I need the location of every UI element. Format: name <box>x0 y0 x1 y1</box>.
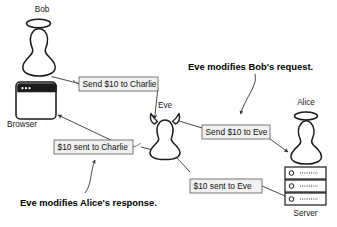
message-request-original-label: Send $10 to Charlie <box>83 79 157 89</box>
eve-horn-right-icon <box>173 114 180 125</box>
bob-halo-icon <box>27 19 51 27</box>
mitm-diagram: Bob Browser Eve Alice <box>0 0 337 227</box>
eve-body-icon <box>150 120 180 160</box>
browser-dot-3 <box>28 87 30 89</box>
actor-bob: Bob <box>23 5 55 76</box>
server-led-1 <box>289 171 294 176</box>
actor-alice: Alice <box>291 98 322 164</box>
actor-browser-label: Browser <box>7 120 37 129</box>
message-response-original: $10 sent to Eve <box>190 179 262 193</box>
browser-dot-1 <box>21 87 23 89</box>
browser-dot-2 <box>25 87 27 89</box>
server-led-3 <box>289 197 294 202</box>
actor-server-label: Server <box>293 209 317 218</box>
annotation-request: Eve modifies Bob's request. <box>188 61 313 114</box>
annotation-request-label: Eve modifies Bob's request. <box>188 61 313 72</box>
annotation-request-pointer <box>241 74 256 114</box>
actor-eve-label: Eve <box>158 101 173 110</box>
bob-body-icon <box>23 29 55 76</box>
alice-halo-icon <box>295 112 318 120</box>
diagram-canvas: Bob Browser Eve Alice <box>0 0 337 227</box>
actor-browser: Browser <box>7 82 57 129</box>
eve-horn-left-icon <box>150 114 157 125</box>
server-led-2 <box>289 184 294 189</box>
actor-bob-label: Bob <box>35 5 50 14</box>
annotation-response-pointer <box>85 160 95 193</box>
message-request-modified: Send $10 to Eve <box>202 125 270 139</box>
actor-eve: Eve <box>150 101 180 160</box>
annotation-response: Eve modifies Alice's response. <box>20 160 157 208</box>
alice-body-icon <box>291 121 322 164</box>
annotation-response-label: Eve modifies Alice's response. <box>20 197 157 208</box>
message-response-modified-label: $10 sent to Charlie <box>58 142 129 152</box>
message-request-modified-label: Send $10 to Eve <box>206 127 268 137</box>
message-request-original: Send $10 to Charlie <box>79 77 158 91</box>
actor-server: Server <box>285 167 326 218</box>
message-response-original-label: $10 sent to Eve <box>194 181 253 191</box>
message-response-modified: $10 sent to Charlie <box>54 140 141 154</box>
actor-alice-label: Alice <box>297 98 315 107</box>
